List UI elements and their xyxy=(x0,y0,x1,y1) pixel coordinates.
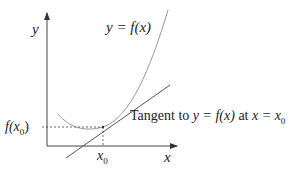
tangent-label: Tangent to y = f(x) at x = x0 xyxy=(130,109,285,126)
curve-label-text: y = f(x) xyxy=(106,19,151,35)
curve-label: y = f(x) xyxy=(106,20,151,35)
x0-label: x0 xyxy=(97,149,108,166)
f-x0-close: ) xyxy=(24,119,29,134)
tangent-eq: y = f(x) xyxy=(193,108,235,123)
tangent-at: at xyxy=(235,108,252,123)
y-axis-label: y xyxy=(32,22,39,37)
f-x0-label: f(x0) xyxy=(5,120,29,137)
tangent-prefix: Tangent to xyxy=(130,108,193,123)
tangent-x: x = x xyxy=(252,108,281,123)
tangent-point xyxy=(102,126,104,128)
x0-sub: 0 xyxy=(103,156,108,166)
tangent-sub: 0 xyxy=(281,116,286,126)
x-axis-label: x xyxy=(164,150,171,165)
f-x0-text: f(x xyxy=(5,119,20,134)
